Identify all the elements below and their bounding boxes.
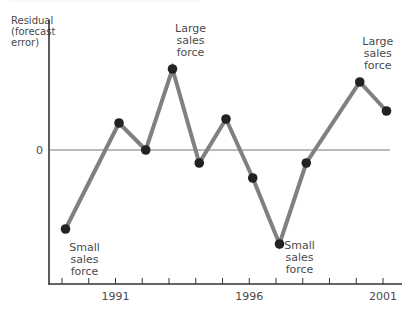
residual-line-chart: Residual(forecasterror) 0 199119962001 S…: [0, 0, 416, 314]
data-point-marker: [114, 118, 124, 128]
data-point-marker: [61, 224, 71, 234]
y-axis-label-line: Residual: [11, 15, 53, 26]
residual-line: [66, 69, 387, 244]
x-tick-label: 2001: [369, 290, 397, 303]
data-point-marker: [355, 77, 365, 87]
y-tick-label-zero: 0: [36, 144, 43, 157]
x-axis-ticks: 199119962001: [62, 278, 397, 303]
y-axis-label-line: error): [11, 37, 39, 48]
data-point-marker: [221, 114, 231, 124]
annotation-text: force: [364, 59, 392, 72]
data-point-marker: [248, 173, 258, 183]
annotation-text: force: [177, 46, 205, 59]
annotation-text: force: [71, 265, 99, 278]
x-tick-label: 1991: [102, 290, 130, 303]
zero-reference-line: 0: [36, 144, 390, 157]
data-point-marker: [194, 158, 204, 168]
data-point-marker: [301, 158, 311, 168]
data-point-marker: [141, 145, 151, 155]
data-point-marker: [275, 239, 285, 249]
x-tick-label: 1996: [235, 290, 263, 303]
data-point-marker: [168, 64, 178, 74]
residual-series: [61, 64, 392, 249]
data-point-marker: [382, 106, 392, 116]
annotation-text: force: [286, 263, 314, 276]
